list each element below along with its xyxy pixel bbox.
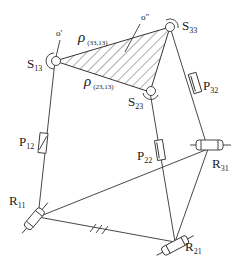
label-s13: S13 [27, 56, 42, 73]
label-p32: P32 [203, 78, 218, 95]
frame-origin-label: o' [56, 28, 63, 38]
platform-origin-label: o" [141, 12, 150, 22]
label-r21: R21 [185, 239, 202, 256]
spherical-joint-s33-icon [166, 19, 179, 32]
label-s33: S33 [182, 18, 197, 35]
label-r11: R11 [9, 193, 25, 210]
revolute-joint-r31-icon [190, 140, 231, 150]
spherical-joint-s13-icon [46, 53, 61, 69]
label-s23: S23 [128, 94, 143, 111]
edge-label-33-13: ρ(33,13) [77, 29, 108, 47]
prismatic-joint-p22-icon [154, 139, 165, 160]
label-p12: P12 [19, 134, 34, 151]
ground-hatch-icon [90, 224, 108, 234]
label-p22: P22 [137, 148, 152, 165]
frame-origin-marker: o' [55, 28, 63, 61]
label-r31: R31 [212, 156, 229, 173]
mechanism-diagram: o' o" [0, 0, 243, 263]
prismatic-joint-p12-icon [38, 133, 48, 154]
base-triangle [38, 149, 208, 242]
prismatic-joint-p32-icon [188, 72, 201, 93]
